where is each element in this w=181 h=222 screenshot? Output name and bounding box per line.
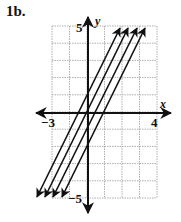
x-axis-label: x — [159, 97, 166, 111]
y-max-label: 5 — [76, 20, 83, 35]
y-min-label: −5 — [68, 191, 82, 206]
y-axis-label: y — [93, 14, 101, 28]
x-min-label: −3 — [41, 115, 55, 130]
coordinate-graph: 5 y x −3 4 −5 — [0, 0, 181, 222]
x-max-label: 4 — [151, 115, 158, 130]
